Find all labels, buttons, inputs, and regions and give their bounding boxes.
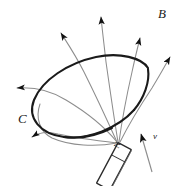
field-line-4 [61, 33, 117, 142]
velocity-arrow-shaft [141, 134, 152, 172]
loop-label: C [18, 112, 27, 125]
figure-canvas [0, 0, 184, 186]
field-line-6 [119, 38, 140, 142]
loop-front-arc [32, 55, 148, 137]
conducting-loop-C [32, 55, 148, 137]
field-line-5 [101, 17, 118, 142]
velocity-arrow [141, 134, 152, 172]
physics-figure: B C v N [0, 0, 184, 186]
bar-magnet [97, 143, 132, 186]
velocity-label: v [153, 132, 157, 141]
field-line-7 [120, 57, 170, 142]
magnet-body [97, 143, 132, 186]
magnetic-field-label: B [158, 7, 166, 20]
field-line-3 [38, 104, 117, 145]
